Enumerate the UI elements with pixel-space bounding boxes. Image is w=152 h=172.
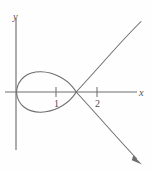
x-axis-label: x — [138, 87, 144, 98]
tick-label-2: 2 — [95, 98, 100, 109]
plot-canvas: y x 1 2 — [0, 0, 152, 172]
y-axis-label: y — [12, 11, 18, 22]
loop-upper-path — [17, 72, 77, 92]
curve-figure: y x 1 2 — [0, 0, 152, 172]
axes-group — [5, 18, 137, 150]
branch-lower-right-path — [76, 92, 136, 159]
branch-upper-right-path — [76, 22, 141, 93]
curve-group — [17, 22, 143, 165]
loop-lower-path — [17, 92, 77, 112]
arrowhead-icon — [132, 156, 142, 165]
tick-label-1: 1 — [54, 98, 59, 109]
